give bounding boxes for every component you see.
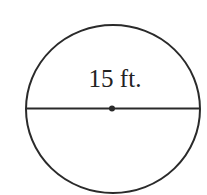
diameter-label: 15 ft. bbox=[89, 65, 142, 92]
circle-diagram: 15 ft. bbox=[0, 0, 207, 195]
center-point bbox=[109, 106, 115, 112]
